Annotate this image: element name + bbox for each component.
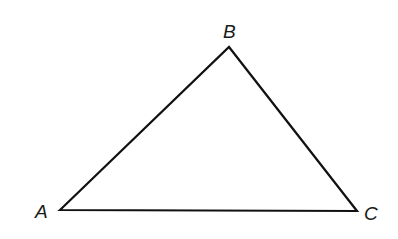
vertex-label-a: A: [34, 201, 48, 222]
vertex-label-c: C: [364, 203, 378, 224]
triangle-abc: [60, 47, 357, 211]
vertex-label-b: B: [223, 21, 236, 42]
triangle-diagram: B A C: [0, 0, 398, 239]
